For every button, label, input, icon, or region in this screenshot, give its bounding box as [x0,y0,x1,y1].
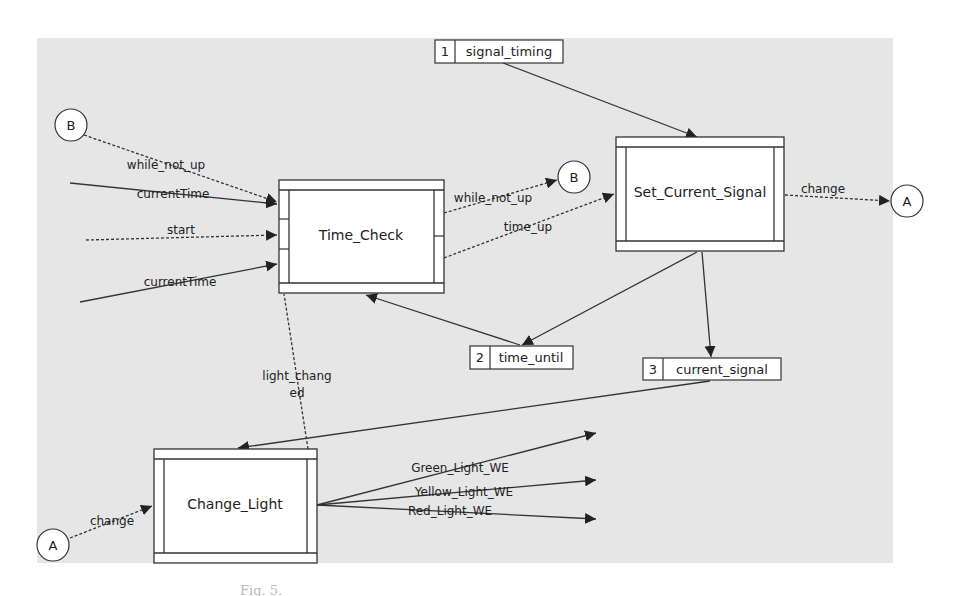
process-label: Time_Check [318,227,404,243]
process-label: Set_Current_Signal [634,184,767,200]
connector-a-out[interactable]: A [891,185,923,217]
store-time-until[interactable]: 2 time_until [470,346,573,369]
process-set-current-signal[interactable]: Set_Current_Signal [616,137,784,251]
store-number: 1 [441,44,449,59]
process-change-light[interactable]: Change_Light [154,449,317,563]
flow-line-to-time-until [522,252,697,345]
flow-label-while-not-up-out: while_not_up [454,191,532,205]
store-signal-timing[interactable]: 1 signal_timing [435,40,563,63]
store-current-signal[interactable]: 3 current_signal [643,358,781,380]
flow-label-current-time-top: currentTime [137,187,210,201]
process-label: Change_Light [187,496,283,512]
store-label: signal_timing [466,44,552,59]
connector-a-in[interactable]: A [37,529,69,561]
figure-caption: Fig. 5. [240,583,690,596]
flow-label-current-time-bottom: currentTime [144,275,217,289]
flow-line-time-until-to-check [366,295,520,345]
flow-label-time-up: time_up [504,220,552,234]
connector-label: A [903,194,912,209]
flow-label-light-changed-line2: ed [290,386,305,400]
connector-label: B [570,170,579,185]
connector-b-out[interactable]: B [558,161,590,193]
flow-label-change-in: change [90,514,134,528]
connector-label: B [67,118,76,133]
connector-label: A [49,538,58,553]
flow-line-signal-timing [503,63,697,137]
flow-label-yellow-light: Yellow_Light_WE [414,485,513,499]
store-number: 3 [649,362,657,377]
flow-label-change-out: change [801,182,845,196]
flow-label-green-light: Green_Light_WE [411,461,509,475]
flow-label-while-not-up-in: while_not_up [127,158,205,172]
flow-line-current-signal-to-change-light [238,381,710,448]
data-flow-diagram: Time_Check Set_Current_Signal Change_Lig… [0,0,957,596]
store-label: current_signal [676,362,768,377]
flow-label-start: start [167,223,195,237]
flow-label-light-changed-line1: light_chang [262,369,331,383]
process-time-check[interactable]: Time_Check [279,180,444,293]
flow-line-to-current-signal [702,252,711,357]
flow-label-red-light: Red_Light_WE [408,504,492,518]
store-label: time_until [499,350,564,365]
connector-b-in[interactable]: B [55,109,87,141]
store-number: 2 [476,350,484,365]
